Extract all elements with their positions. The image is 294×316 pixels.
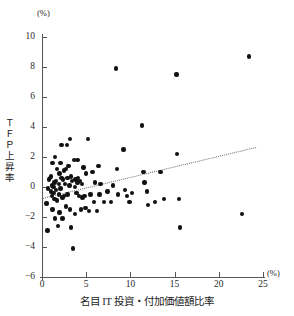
y-tick-label: −2 — [5, 212, 35, 222]
data-point — [53, 155, 57, 159]
x-tick-label: 15 — [163, 280, 187, 290]
data-point — [58, 161, 62, 165]
y-tick-label: 8 — [5, 62, 35, 72]
data-point — [68, 207, 72, 211]
data-point — [92, 200, 96, 204]
x-tick-label: 5 — [74, 280, 98, 290]
data-point — [140, 123, 144, 127]
data-point — [96, 164, 100, 168]
y-tick-label: 4 — [5, 122, 35, 132]
x-axis-line — [40, 277, 265, 278]
x-tick-label: 0 — [30, 280, 54, 290]
data-point — [65, 143, 69, 147]
y-tick-label: 0 — [5, 182, 35, 192]
data-point — [158, 170, 162, 174]
data-point — [65, 192, 69, 196]
data-point — [177, 197, 181, 201]
data-point — [146, 203, 150, 207]
y-tick-label: −4 — [5, 242, 35, 252]
data-point — [121, 147, 125, 151]
data-point — [175, 152, 179, 156]
data-point — [55, 198, 59, 202]
data-point — [73, 185, 77, 189]
data-point — [75, 158, 79, 162]
y-tick-label: 10 — [5, 32, 35, 42]
data-point — [93, 180, 97, 184]
y-tick-label: 6 — [5, 92, 35, 102]
y-axis-unit-label: (%) — [37, 9, 50, 18]
data-point — [69, 225, 73, 229]
data-point — [105, 189, 109, 193]
data-point — [125, 194, 129, 198]
y-axis-title-char: Ｐ — [3, 140, 17, 151]
data-point — [50, 161, 54, 165]
data-point — [49, 174, 53, 178]
data-point — [130, 191, 134, 195]
data-point — [86, 137, 90, 141]
data-point — [84, 171, 88, 175]
data-point — [111, 183, 115, 187]
data-point — [142, 180, 146, 184]
data-point — [59, 143, 63, 147]
data-point — [90, 170, 94, 174]
data-point — [178, 225, 182, 229]
data-point — [60, 216, 64, 220]
data-point — [127, 200, 131, 204]
data-point — [57, 210, 61, 214]
data-point — [98, 182, 102, 186]
data-point — [44, 201, 48, 205]
data-point — [153, 200, 157, 204]
data-point — [45, 228, 49, 232]
data-point — [82, 194, 86, 198]
data-point — [66, 164, 70, 168]
data-point — [109, 200, 113, 204]
data-point — [50, 207, 54, 211]
data-point — [53, 216, 57, 220]
x-axis-unit-label: (%) — [267, 269, 280, 278]
data-point — [115, 167, 119, 171]
x-tick-label: 20 — [207, 280, 231, 290]
data-point — [116, 192, 120, 196]
y-tick-label: 2 — [5, 152, 35, 162]
data-point — [87, 209, 91, 213]
data-point — [114, 66, 118, 70]
data-point — [97, 192, 101, 196]
x-tick-label: 10 — [118, 280, 142, 290]
data-point — [141, 170, 145, 174]
data-point — [88, 192, 92, 196]
data-point — [162, 197, 166, 201]
data-point — [123, 188, 127, 192]
data-point — [240, 212, 244, 216]
data-point — [68, 137, 72, 141]
y-tick-mark — [42, 277, 47, 278]
x-tick-mark — [263, 272, 264, 277]
data-point — [247, 54, 251, 58]
data-point — [145, 189, 149, 193]
x-axis-title: 名目 IT 投資・付加価値額比率 — [0, 296, 294, 308]
scatter-plot-figure: (%) (%) ＴＦＰ上昇率 名目 IT 投資・付加価値額比率 1086420−… — [0, 0, 294, 316]
data-point — [80, 182, 84, 186]
data-point — [174, 72, 178, 76]
data-point — [102, 200, 106, 204]
data-point — [71, 246, 75, 250]
x-tick-label: 25 — [251, 280, 275, 290]
data-point — [67, 183, 71, 187]
data-point — [73, 212, 77, 216]
plot-area — [42, 37, 263, 277]
y-axis-title-char: 昇 — [3, 162, 17, 173]
data-point — [95, 209, 99, 213]
data-point — [56, 224, 60, 228]
data-point — [81, 165, 85, 169]
data-point — [58, 186, 62, 190]
